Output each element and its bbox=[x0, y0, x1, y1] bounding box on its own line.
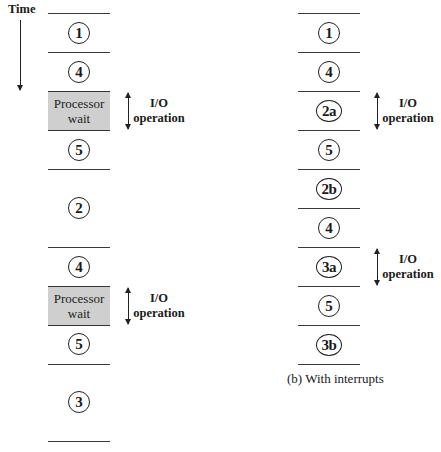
step-2b: 2b bbox=[316, 178, 342, 200]
divider bbox=[298, 130, 360, 131]
processor-wait-line1: Processor bbox=[54, 96, 105, 111]
time-label: Time bbox=[8, 2, 36, 17]
time-arrow-icon bbox=[20, 20, 21, 90]
io-double-arrow-icon bbox=[377, 249, 378, 285]
divider bbox=[298, 247, 360, 248]
step-2a: 2a bbox=[316, 100, 342, 122]
step-4: 4 bbox=[318, 61, 340, 83]
io-label-line1: I/O bbox=[132, 96, 186, 111]
divider bbox=[48, 247, 110, 248]
divider bbox=[298, 208, 360, 209]
step-4: 4 bbox=[318, 217, 340, 239]
processor-wait-line1: Processor bbox=[54, 291, 105, 306]
divider bbox=[298, 13, 360, 14]
step-4: 4 bbox=[68, 256, 90, 278]
divider bbox=[48, 52, 110, 53]
step-5: 5 bbox=[68, 333, 90, 355]
divider bbox=[48, 169, 110, 170]
divider bbox=[298, 325, 360, 326]
step-5: 5 bbox=[68, 139, 90, 161]
processor-wait-box: Processor wait bbox=[48, 286, 110, 326]
io-double-arrow-icon bbox=[377, 93, 378, 129]
divider bbox=[298, 169, 360, 170]
io-label-line2: operation bbox=[132, 306, 186, 321]
processor-wait-line2: wait bbox=[68, 111, 90, 126]
divider bbox=[298, 91, 360, 92]
step-3: 3 bbox=[68, 391, 90, 413]
io-label-line2: operation bbox=[132, 111, 186, 126]
step-1: 1 bbox=[68, 22, 90, 44]
step-3b: 3b bbox=[316, 334, 342, 356]
processor-wait-box: Processor wait bbox=[48, 91, 110, 131]
io-label-line1: I/O bbox=[381, 252, 435, 267]
step-5: 5 bbox=[318, 139, 340, 161]
divider bbox=[298, 286, 360, 287]
io-double-arrow-icon bbox=[128, 288, 129, 324]
step-3a: 3a bbox=[316, 256, 342, 278]
divider bbox=[298, 52, 360, 53]
io-operation-label: I/O operation bbox=[381, 96, 435, 126]
caption-with-interrupts: (b) With interrupts bbox=[287, 371, 384, 387]
io-operation-label: I/O operation bbox=[132, 96, 186, 126]
step-1: 1 bbox=[318, 22, 340, 44]
io-double-arrow-icon bbox=[128, 93, 129, 129]
io-label-line1: I/O bbox=[132, 291, 186, 306]
io-label-line2: operation bbox=[381, 111, 435, 126]
step-2: 2 bbox=[68, 197, 90, 219]
step-4: 4 bbox=[68, 61, 90, 83]
io-label-line1: I/O bbox=[381, 96, 435, 111]
divider bbox=[298, 364, 360, 365]
divider bbox=[48, 364, 110, 365]
io-operation-label: I/O operation bbox=[381, 252, 435, 282]
divider bbox=[48, 441, 110, 442]
io-operation-label: I/O operation bbox=[132, 291, 186, 321]
processor-wait-line2: wait bbox=[68, 306, 90, 321]
io-label-line2: operation bbox=[381, 267, 435, 282]
divider bbox=[48, 13, 110, 14]
step-5: 5 bbox=[318, 295, 340, 317]
